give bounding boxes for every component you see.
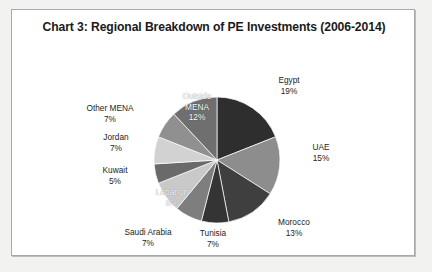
slice-name-other-mena: Other MENA [73,103,147,114]
slice-name-outside-mena-line1: Outside [170,91,224,102]
slice-pct-lebanon: 8% [145,198,199,209]
slice-name-egypt: Egypt [260,75,318,86]
slice-pct-saudi-arabia: 7% [112,238,184,249]
slice-label-morocco: Morocco 13% [265,217,323,238]
slice-label-kuwait: Kuwait 5% [91,165,139,186]
slice-label-lebanon: Lebanon 8% [145,187,199,208]
slice-pct-kuwait: 5% [91,176,139,187]
slice-pct-egypt: 19% [260,86,318,97]
slice-pct-jordan: 7% [92,143,140,154]
slice-pct-outside-mena: 12% [170,112,224,123]
slice-name-tunisia: Tunisia [187,228,239,239]
slice-label-uae: UAE 15% [297,142,345,163]
slice-name-kuwait: Kuwait [91,165,139,176]
slice-name-saudi-arabia: Saudi Arabia [112,227,184,238]
slice-name-morocco: Morocco [265,217,323,228]
pie-chart-svg [12,10,416,257]
chart-frame: Chart 3: Regional Breakdown of PE Invest… [11,9,415,256]
slice-pct-uae: 15% [297,153,345,164]
chart-page: Chart 3: Regional Breakdown of PE Invest… [0,0,432,272]
slice-label-saudi-arabia: Saudi Arabia 7% [112,227,184,248]
slice-label-egypt: Egypt 19% [260,75,318,96]
pie-plot-area: Egypt 19% UAE 15% Morocco 13% Tunisia 7%… [12,10,416,257]
slice-pct-other-mena: 7% [73,114,147,125]
slice-label-tunisia: Tunisia 7% [187,228,239,249]
slice-name-jordan: Jordan [92,132,140,143]
slice-pct-morocco: 13% [265,228,323,239]
slice-label-jordan: Jordan 7% [92,132,140,153]
slice-label-other-mena: Other MENA 7% [73,103,147,124]
slice-name-outside-mena-line2: MENA [170,102,224,113]
slice-label-outside-mena: Outside MENA 12% [170,91,224,123]
slice-name-uae: UAE [297,142,345,153]
slice-name-lebanon: Lebanon [145,187,199,198]
slice-pct-tunisia: 7% [187,239,239,250]
